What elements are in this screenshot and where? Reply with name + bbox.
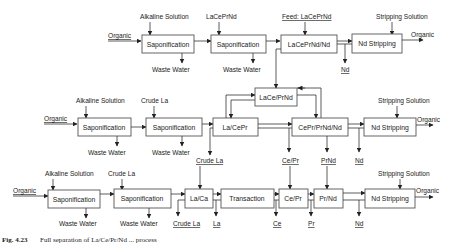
row3-nd-stripping-label: Nd Stripping (371, 195, 409, 203)
row1-nd-stripping-label: Nd Stripping (358, 40, 396, 48)
row2-alkaline-label: Alkaline Solution (76, 97, 125, 104)
row-3: Organic Alkaline Solution Saponification… (13, 166, 440, 227)
row2-crude-la-input-label: Crude La (141, 97, 168, 104)
caption-label: Fig. 4.23 (2, 236, 28, 243)
row1-lacePrNd-nd-label: LaCePrNd/Nd (288, 41, 331, 48)
row3-organic-input-label: Organic (13, 187, 37, 195)
row2-waste-water-2-label: Waste Water (152, 149, 190, 156)
row3-organic-out-label: Organic (416, 187, 440, 195)
process-flow-diagram: Organic Alkaline Solution Saponification… (0, 0, 453, 243)
row3-crude-la-output-label: Crude La (173, 220, 200, 227)
row2-nd-output-label: Nd (355, 157, 364, 164)
row3-waste-water-1-label: Waste Water (59, 220, 97, 227)
row2-la-cepr-label: La/CePr (223, 124, 249, 131)
row3-ce-output-label: Ce (273, 220, 282, 227)
caption-text: Full separation of La/Ce/Pr/Nd ... proce… (40, 236, 157, 243)
row3-pr-nd-label: Pr/Nd (319, 195, 337, 202)
row-1: Organic Alkaline Solution Saponification… (108, 13, 435, 84)
row3-stripping-label: Stripping Solution (378, 170, 430, 178)
row3-transaction-label: Transaction (229, 195, 264, 202)
row1-organic-out-label: Organic (411, 31, 435, 39)
row2-saponification-1-label: Saponification (83, 124, 126, 132)
row2-nd-stripping-label: Nd Stripping (371, 124, 409, 132)
row1-saponification-1-label: Saponification (147, 41, 190, 49)
row2-cepr-prnd-nd-label: CePr/PrNd/Nd (298, 124, 342, 131)
row3-la-output-label: La (213, 220, 221, 227)
row2-waste-water-1-label: Waste Water (88, 149, 126, 156)
row3-la-ca-label: La/Ca (190, 195, 208, 202)
row3-ce-pr-label: Ce/Pr (284, 195, 302, 202)
row1-waste-water-2-label: Waste Water (223, 66, 261, 73)
row3-waste-water-2-label: Waste Water (120, 220, 158, 227)
row1-saponification-2-label: Saponification (217, 41, 260, 49)
row3-nd-output-label: Nd (355, 220, 364, 227)
row-2: Organic Alkaline Solution Saponification… (44, 84, 441, 164)
row1-stripping-label: Stripping Solution (376, 13, 428, 21)
row1-waste-water-1-label: Waste Water (152, 66, 190, 73)
row1-nd-product-label: Nd (341, 66, 350, 73)
row3-alkaline-label: Alkaline Solution (45, 170, 94, 177)
row3-saponification-2-label: Saponification (121, 195, 164, 203)
row2-prnd-output-label: PrNd (321, 157, 336, 164)
row2-stripping-label: Stripping Solution (378, 97, 430, 105)
row2-lace-prnd-label: LaCe/PrNd (259, 94, 293, 101)
row1-feed-label: Feed: LaCePrNd (282, 13, 332, 20)
row2-saponification-2-label: Saponification (153, 124, 196, 132)
row3-saponification-1-label: Saponification (53, 196, 96, 204)
row1-lacePrNd-label: LaCePrNd (206, 13, 237, 20)
figure-caption: Fig. 4.23 Full separation of La/Ce/Pr/Nd… (2, 236, 157, 243)
row3-crude-la-input-label: Crude La (108, 170, 135, 177)
row2-cepr-output-label: Ce/Pr (282, 157, 300, 164)
row2-organic-input-label: Organic (44, 115, 68, 123)
row2-crude-la-output-label: Crude La (196, 157, 223, 164)
row1-organic-input-label: Organic (108, 32, 132, 40)
row1-alkaline-label: Alkaline Solution (140, 13, 189, 20)
row2-organic-out-label: Organic (417, 116, 441, 124)
row3-pr-output-label: Pr (308, 220, 315, 227)
